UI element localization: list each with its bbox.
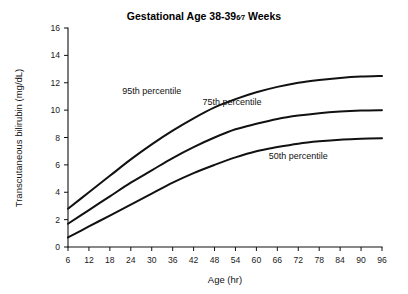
y-tick-label: 12	[50, 78, 60, 88]
y-tick-label: 10	[50, 105, 60, 115]
x-tick-label: 90	[356, 255, 366, 265]
x-tick-label: 72	[293, 255, 303, 265]
x-axis-title: Age (hr)	[208, 274, 242, 285]
chart-canvas: Gestational Age 38-396⁄7 Weeks Transcuta…	[0, 0, 408, 294]
curve-75th-percentile	[68, 110, 382, 224]
x-tick-label: 48	[210, 255, 220, 265]
y-tick-label: 6	[55, 160, 60, 170]
y-tick-label: 0	[55, 242, 60, 252]
x-tick-label: 36	[168, 255, 178, 265]
x-tick-label: 54	[231, 255, 241, 265]
x-tick-label: 6	[66, 255, 71, 265]
x-tick-label: 96	[377, 255, 387, 265]
y-axis-title: Transcutaneous bilirubin (mg/dL)	[13, 69, 24, 208]
x-tick-label: 30	[147, 255, 157, 265]
series-label-75th-percentile: 75th percentile	[202, 97, 261, 107]
y-tick-label: 14	[50, 50, 60, 60]
series-label-50th-percentile: 50th percentile	[269, 151, 328, 161]
x-tick-label: 12	[84, 255, 94, 265]
bilirubin-nomogram-chart: Gestational Age 38-396⁄7 Weeks Transcuta…	[0, 0, 408, 294]
x-tick-label: 24	[126, 255, 136, 265]
curve-50th-percentile	[68, 138, 382, 237]
series-labels: 95th percentile75th percentile50th perce…	[122, 86, 328, 162]
x-tick-label: 60	[252, 255, 262, 265]
y-tick-label: 16	[50, 23, 60, 33]
x-tick-label: 84	[335, 255, 345, 265]
x-tick-label: 78	[314, 255, 324, 265]
x-tick-label: 42	[189, 255, 199, 265]
x-axis-ticks: 6121824303642485460667278849096	[66, 247, 387, 265]
y-axis-ticks: 0246810121416	[50, 23, 68, 252]
series-label-95th-percentile: 95th percentile	[122, 86, 181, 96]
y-tick-label: 2	[55, 215, 60, 225]
y-tick-label: 8	[55, 133, 60, 143]
x-tick-label: 66	[273, 255, 283, 265]
y-tick-label: 4	[55, 187, 60, 197]
x-tick-label: 18	[105, 255, 115, 265]
chart-title: Gestational Age 38-396⁄7 Weeks	[127, 10, 281, 22]
